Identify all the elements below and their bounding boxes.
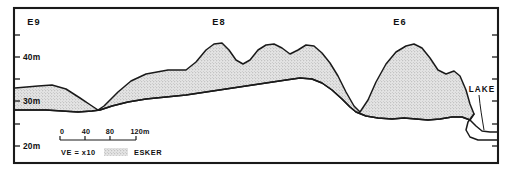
lake-annotation-label: LAKE: [469, 85, 495, 94]
scale-tick-label-120m: 120m: [130, 127, 149, 136]
section-label-e6: E6: [393, 17, 406, 27]
esker-legend-label: ESKER: [134, 148, 162, 157]
scale-tick-label-80: 80: [106, 127, 114, 136]
legend: VE = x10 ESKER: [61, 148, 162, 157]
vertical-exaggeration-label: VE = x10: [61, 148, 96, 157]
cross-section-svg: 40m 30m 20m E9 E8 E6 LAKE 0 40 80 120m V…: [0, 0, 513, 176]
section-label-e9: E9: [27, 17, 40, 27]
esker-pattern-swatch: [104, 148, 128, 156]
scale-tick-label-0: 0: [60, 127, 64, 136]
section-label-e8: E8: [212, 17, 225, 27]
y-axis-label-40m: 40m: [23, 52, 40, 62]
esker-profile-figure: 40m 30m 20m E9 E8 E6 LAKE 0 40 80 120m V…: [0, 0, 513, 176]
scale-tick-label-40: 40: [82, 127, 90, 136]
y-axis-label-20m: 20m: [23, 141, 40, 151]
y-axis-label-30m: 30m: [23, 96, 40, 106]
